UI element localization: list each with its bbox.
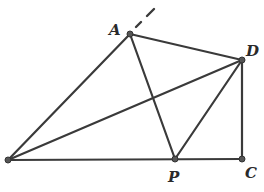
dash-1 xyxy=(136,22,141,27)
segment-AP xyxy=(130,34,175,159)
point-P xyxy=(172,156,178,162)
segment-AD xyxy=(130,34,242,60)
segment-BC xyxy=(8,159,242,160)
label-C: C xyxy=(245,164,257,182)
point-D xyxy=(239,57,245,63)
geometry-diagram: A D P C xyxy=(0,0,264,192)
points xyxy=(5,31,245,163)
label-P: P xyxy=(167,168,180,186)
segments xyxy=(8,34,242,160)
dash-2 xyxy=(147,9,154,16)
segment-BA xyxy=(8,34,130,160)
point-B xyxy=(5,157,11,163)
label-A: A xyxy=(107,21,121,39)
point-C xyxy=(239,156,245,162)
label-D: D xyxy=(245,42,259,60)
point-A xyxy=(127,31,133,37)
dashed-extension xyxy=(136,9,154,27)
